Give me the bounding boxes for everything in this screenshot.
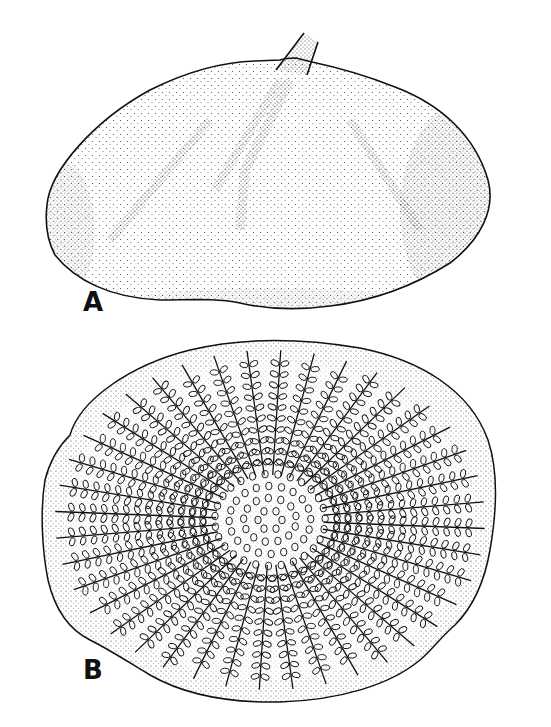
panel-label-a: A <box>83 289 103 315</box>
panel-b-illustration: B <box>0 330 551 727</box>
dome-body-drawing <box>0 0 551 330</box>
panel-a-illustration: A <box>0 0 551 330</box>
panel-label-b: B <box>83 657 103 683</box>
